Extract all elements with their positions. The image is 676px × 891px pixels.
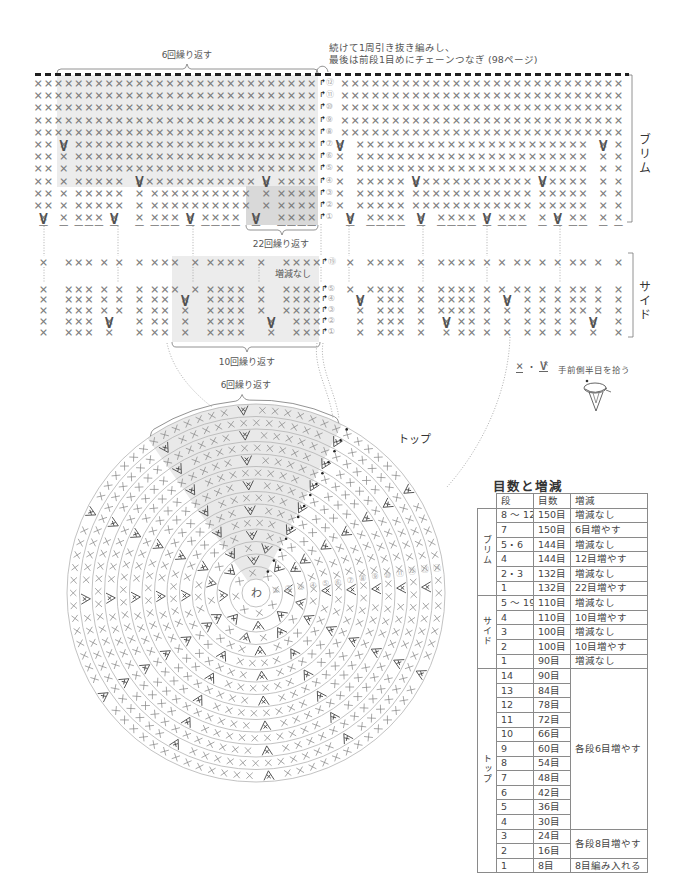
cell-change: 増減なし (571, 508, 648, 523)
cell-stitches: 90目 (534, 654, 571, 669)
round-start-arrow-icon: ↱ (319, 163, 326, 172)
brim-round-marker: ↱⑨ (319, 115, 333, 125)
header-change: 増減 (571, 494, 648, 509)
cell-change-merged: 各段8目増やす (571, 829, 648, 858)
side-bracket (628, 253, 633, 337)
brim-round-marker: ↱⑩ (319, 102, 333, 112)
brim-round-marker: ↱⑤ (319, 163, 333, 173)
round-number: ① (326, 212, 333, 221)
side-no-change-label: 増減なし (275, 269, 311, 280)
cell-change: 22目増やす (571, 581, 648, 596)
round-start-arrow-icon: ↱ (319, 78, 326, 87)
side-round-marker: ↱③ (321, 305, 335, 315)
cell-round: 8 ～ 12 (497, 508, 534, 523)
cell-change: 増減なし (571, 654, 648, 669)
brim-round-marker: ↱⑦ (319, 139, 333, 149)
cell-stitches: 110目 (534, 596, 571, 611)
cell-change: 8目編み入れる (571, 858, 648, 873)
header-stitches: 目数 (534, 494, 571, 509)
finishing-note: 続けて1周引き抜き編みし、 最後は前段1目めにチェーンつなぎ (98ページ) (329, 42, 538, 65)
cell-stitches: 84目 (534, 683, 571, 698)
brim-round-marker: ↱⑪ (319, 90, 334, 100)
cell-stitches: 78目 (534, 698, 571, 713)
cell-stitches: 144目 (534, 552, 571, 567)
round-number: ② (326, 200, 333, 209)
brim-row-right-front-loop-marks: – – – – – – – – – – – – – – – – – – – – (336, 217, 620, 231)
round-number: ④ (326, 176, 333, 185)
round-start-arrow-icon: ↱ (321, 327, 328, 336)
round-number: ⑥ (326, 151, 333, 160)
cell-change: 12目増やす (571, 552, 648, 567)
cell-round: 2・3 (497, 566, 534, 581)
group-label-text: トップ (481, 754, 493, 784)
round-number: ⑲ (328, 257, 336, 266)
round-start-arrow-icon: ↱ (319, 90, 326, 99)
top-section-label: トップ (398, 430, 431, 446)
table-row: 5・6144目増減なし (478, 537, 648, 552)
cell-stitches: 150目 (534, 508, 571, 523)
group-label-text: サイド (481, 616, 493, 646)
brim-round-marker: ↱④ (319, 176, 333, 186)
legend-separator: ・ (527, 362, 536, 373)
brim-round-marker: ↱① (319, 212, 333, 222)
cell-round: 3 (497, 829, 534, 844)
stitch-count-table: 段 目数 増減 ブリム 8 ～ 12 150目 増減なし 7150目6目増やす … (477, 493, 648, 873)
cell-round: 5・6 (497, 537, 534, 552)
brim-repeat-label: 6回繰り返す (147, 50, 227, 61)
cell-round: 11 (497, 712, 534, 727)
group-label-text: ブリム (481, 535, 493, 565)
top-repeat-label: 6回繰り返す (206, 380, 286, 391)
group-label-side: サイド (478, 596, 497, 669)
cell-round: 7 (497, 771, 534, 786)
brim-round-marker: ↱③ (319, 188, 333, 198)
cell-round: 3 (497, 625, 534, 640)
brim-round-marker: ↱⑥ (319, 151, 333, 161)
table-row: 1 8目 8目編み入れる (478, 858, 648, 873)
round-start-arrow-icon: ↱ (319, 212, 326, 221)
cell-stitches: 42目 (534, 785, 571, 800)
round-number: ⑦ (326, 139, 333, 148)
cell-stitches: 132目 (534, 581, 571, 596)
front-half-loop-icon (580, 378, 612, 414)
side-round-marker: ↱⑲ (321, 257, 336, 267)
side-row-right-stitches: × × × × × × × × × × × × × × × × × × × × (336, 255, 620, 269)
cell-round: 12 (497, 698, 534, 713)
cell-round: 6 (497, 785, 534, 800)
front-loop-inc-inner-x: × (543, 359, 549, 370)
round-start-arrow-icon: ↱ (321, 257, 328, 266)
side-repeat-brace (172, 342, 320, 352)
cell-round: 1 (497, 858, 534, 873)
brim-row-left-front-loop-marks: – – – – – – – – – – – – – – – – – – – – (34, 217, 318, 231)
brim-bracket (627, 75, 632, 222)
round-start-arrow-icon: ↱ (321, 316, 328, 325)
cell-stitches: 66目 (534, 727, 571, 742)
cell-round: 5 (497, 800, 534, 815)
cell-stitches: 48目 (534, 771, 571, 786)
side-section-label: サイド (637, 280, 649, 322)
round-start-arrow-icon: ↱ (321, 294, 328, 303)
cell-stitches: 36目 (534, 800, 571, 815)
cell-round: 9 (497, 742, 534, 757)
cell-round: 4 (497, 610, 534, 625)
finishing-note-line2: 最後は前段1目めにチェーンつなぎ (98ページ) (329, 54, 538, 66)
round-start-arrow-icon: ↱ (319, 151, 326, 160)
cell-change: 増減なし (571, 566, 648, 581)
side-row-left-stitches: × × × × × × × × × × × × × × × × × (34, 325, 318, 339)
round-number: ⑪ (326, 90, 334, 99)
group-label-brim: ブリム (478, 508, 497, 596)
table-header-row: 段 目数 増減 (478, 494, 648, 509)
round-start-arrow-icon: ↱ (319, 200, 326, 209)
cell-stitches: 8目 (534, 858, 571, 873)
cell-round: 4 (497, 815, 534, 830)
table-row: 7150目6目増やす (478, 523, 648, 538)
header-round: 段 (497, 494, 534, 509)
round-number: ⑫ (326, 78, 334, 87)
cell-round: 4 (497, 552, 534, 567)
cell-round: 13 (497, 683, 534, 698)
round-start-arrow-icon: ↱ (321, 305, 328, 314)
table-row: サイド 5 ～ 19 110目 増減なし (478, 596, 648, 611)
round-start-arrow-icon: ↱ (319, 176, 326, 185)
cell-stitches: 144目 (534, 537, 571, 552)
brim-round-marker: ↱② (319, 200, 333, 210)
table-row: ブリム 8 ～ 12 150目 増減なし (478, 508, 648, 523)
